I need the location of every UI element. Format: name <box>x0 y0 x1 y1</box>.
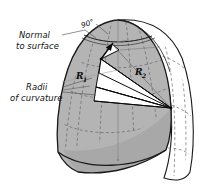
r2-subscript: 2 <box>141 72 146 79</box>
r1-subscript: 1 <box>83 76 87 83</box>
surface-point <box>100 58 103 61</box>
diagram-canvas: Normal to surface 90° Radii of curvature… <box>0 0 212 196</box>
normal-label-line1: Normal <box>19 30 51 40</box>
leader-normal <box>62 30 85 35</box>
radii-label-line1: Radii <box>26 82 48 92</box>
angle-label: 90° <box>80 17 95 30</box>
radii-vertex-point <box>170 107 173 110</box>
radii-label-line2: of curvature <box>10 93 63 103</box>
curvature-diagram: Normal to surface 90° Radii of curvature… <box>0 0 212 196</box>
normal-label-line2: to surface <box>16 41 59 51</box>
